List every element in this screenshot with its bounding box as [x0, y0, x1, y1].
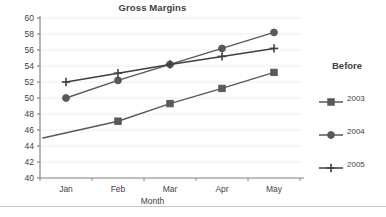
circle-marker-icon	[318, 126, 344, 136]
chart-legend: Before 200320042005	[318, 60, 386, 192]
svg-text:Feb: Feb	[111, 184, 126, 194]
x-axis-title: Month	[0, 196, 305, 206]
svg-text:40: 40	[25, 173, 35, 183]
legend-items: 200320042005	[318, 93, 386, 169]
plus-marker-icon	[318, 159, 344, 169]
svg-text:44: 44	[25, 141, 35, 151]
legend-item-2005[interactable]: 2005	[318, 159, 386, 169]
legend-label: 2004	[347, 127, 365, 136]
y-tick-labels: 6058565452504846444240	[25, 13, 35, 183]
svg-text:54: 54	[25, 61, 35, 71]
svg-text:52: 52	[25, 77, 35, 87]
gridlines	[40, 18, 300, 178]
legend-item-2004[interactable]: 2004	[318, 126, 386, 136]
bottom-divider	[0, 206, 386, 207]
square-marker-icon	[318, 93, 344, 103]
svg-text:42: 42	[25, 157, 35, 167]
svg-text:Apr: Apr	[215, 184, 228, 194]
x-tick-labels: JanFebMarAprMay	[59, 184, 283, 194]
svg-text:May: May	[266, 184, 283, 194]
legend-label: 2003	[347, 94, 365, 103]
svg-text:56: 56	[25, 45, 35, 55]
chart-container: Gross Margins 6058565452504846444240 Jan…	[0, 0, 386, 217]
svg-text:48: 48	[25, 109, 35, 119]
svg-text:60: 60	[25, 13, 35, 23]
series-layer	[43, 29, 278, 138]
svg-text:46: 46	[25, 125, 35, 135]
svg-text:Mar: Mar	[163, 184, 178, 194]
svg-text:58: 58	[25, 29, 35, 39]
svg-text:50: 50	[25, 93, 35, 103]
svg-text:Jan: Jan	[59, 184, 73, 194]
legend-item-2003[interactable]: 2003	[318, 93, 386, 103]
legend-label: 2005	[347, 160, 365, 169]
legend-title: Before	[332, 60, 386, 71]
